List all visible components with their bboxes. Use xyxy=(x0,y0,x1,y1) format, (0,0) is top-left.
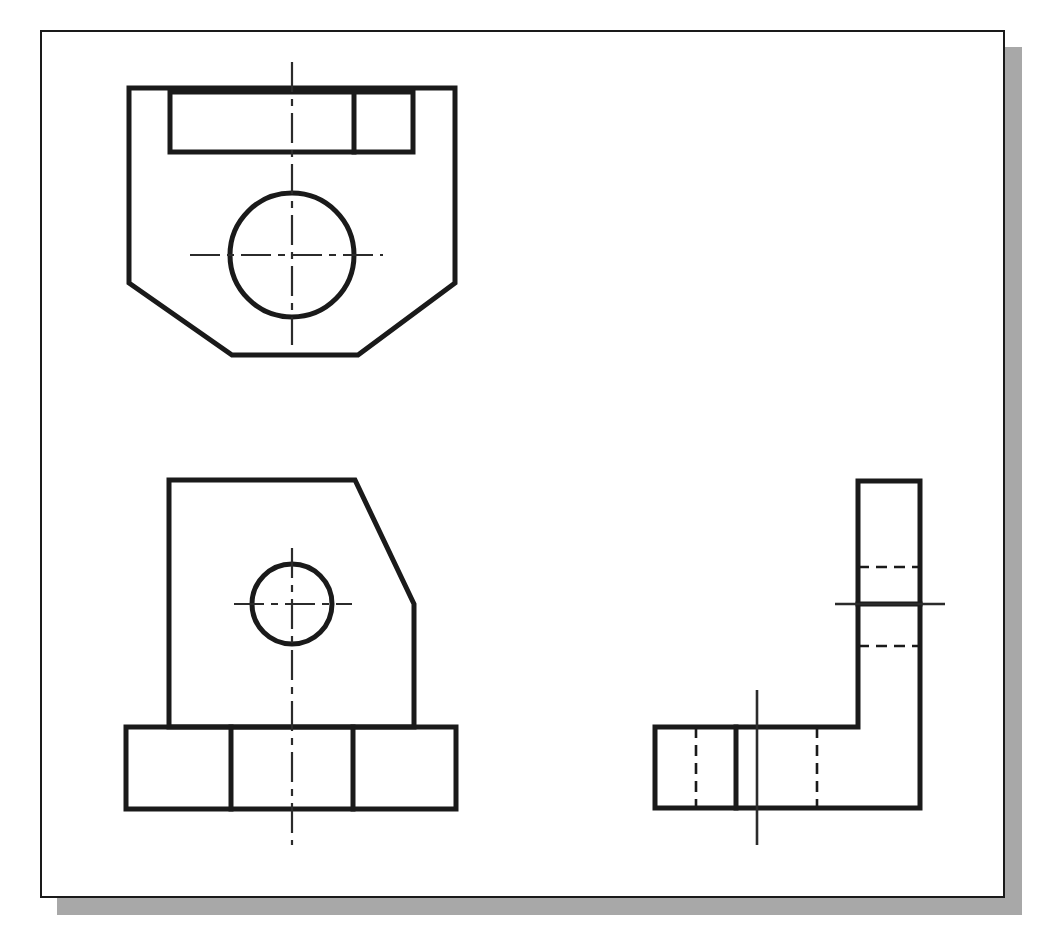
drawing-sheet-border xyxy=(40,30,1005,898)
drawing-canvas xyxy=(0,0,1050,929)
